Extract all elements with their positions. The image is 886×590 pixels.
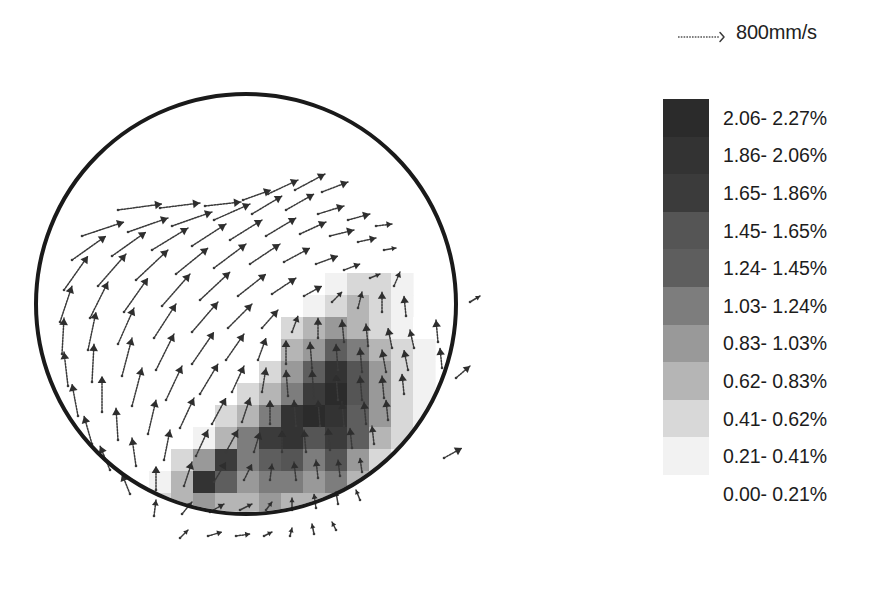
- velocity-arrow: [152, 500, 159, 517]
- velocity-arrow: [251, 196, 282, 215]
- velocity-arrow: [63, 256, 88, 291]
- circular-domain-outline: [36, 94, 456, 514]
- velocity-arrow: [331, 292, 342, 303]
- concentration-legend: 2.06- 2.27%1.86- 2.06%1.65- 1.86%1.45- 1…: [663, 99, 878, 513]
- velocity-arrow: [313, 460, 321, 479]
- velocity-arrow: [469, 296, 480, 303]
- velocity-arrow: [225, 430, 239, 453]
- velocity-arrow: [362, 324, 371, 347]
- legend-range-label: 1.65- 1.86%: [723, 181, 827, 204]
- velocity-arrow: [369, 426, 377, 445]
- velocity-arrow: [332, 374, 341, 401]
- legend-range-label: 0.21- 0.41%: [723, 445, 827, 468]
- velocity-arrow: [332, 344, 341, 371]
- velocity-arrow: [117, 201, 162, 212]
- velocity-arrow: [382, 400, 390, 421]
- velocity-arrow: [111, 232, 146, 257]
- velocity-arrow: [253, 432, 262, 453]
- legend-range-label: 0.41- 0.62%: [723, 407, 827, 430]
- velocity-arrow: [261, 368, 270, 393]
- velocity-arrow: [303, 286, 322, 298]
- velocity-arrow: [299, 221, 326, 235]
- velocity-arrow: [131, 368, 145, 407]
- legend-row: 0.21- 0.41%: [663, 437, 878, 475]
- velocity-arrow: [179, 398, 195, 429]
- velocity-arrow: [89, 344, 98, 383]
- velocity-arrow: [213, 203, 250, 221]
- velocity-arrow: [324, 428, 333, 451]
- velocity-arrow: [288, 528, 293, 537]
- legend-row: 0.41- 0.62%: [663, 400, 878, 438]
- velocity-arrow: [59, 286, 74, 323]
- legend-row: 1.86- 2.06%: [663, 137, 878, 175]
- velocity-arrow: [268, 464, 275, 481]
- velocity-arrow: [87, 312, 99, 351]
- velocity-arrow: [291, 462, 299, 481]
- velocity-arrow: [378, 376, 387, 399]
- velocity-arrow: [163, 430, 173, 461]
- velocity-arrow: [265, 502, 272, 511]
- velocity-arrow: [249, 244, 280, 265]
- legend-color-swatch: [663, 212, 709, 250]
- velocity-arrow: [347, 212, 370, 222]
- velocity-arrow: [261, 310, 278, 329]
- velocity-arrow: [393, 272, 401, 287]
- velocity-arrow: [401, 350, 409, 371]
- velocity-arrow: [360, 402, 369, 425]
- velocity-arrow: [199, 364, 218, 395]
- legend-color-swatch: [663, 287, 709, 325]
- velocity-arrow: [455, 366, 470, 379]
- velocity-arrow: [432, 320, 441, 343]
- velocity-arrow: [358, 458, 364, 473]
- velocity-arrow: [175, 248, 208, 275]
- velocity-arrow: [332, 522, 338, 531]
- velocity-arrow: [227, 304, 252, 329]
- velocity-arrow: [121, 338, 135, 377]
- legend-row: 1.65- 1.86%: [663, 174, 878, 212]
- velocity-arrow: [89, 282, 109, 319]
- velocity-arrow: [112, 408, 121, 441]
- legend-row: 1.24- 1.45%: [663, 249, 878, 287]
- velocity-arrow: [400, 296, 408, 317]
- velocity-arrow: [338, 402, 347, 427]
- velocity-arrow: [443, 448, 462, 460]
- velocity-arrow: [314, 318, 322, 339]
- velocity-arrow: [98, 376, 107, 413]
- legend-range-label: 1.24- 1.45%: [723, 257, 827, 280]
- velocity-arrow: [123, 278, 148, 313]
- velocity-arrow: [263, 532, 272, 538]
- velocity-arrow: [282, 340, 291, 365]
- velocity-arrow: [375, 221, 392, 228]
- velocity-arrow: [343, 263, 360, 272]
- legend-range-label: 1.86- 2.06%: [723, 144, 827, 167]
- legend-row: 2.06- 2.27%: [663, 99, 878, 137]
- figure-root: 800mm/s 2.06- 2.27%1.86- 2.06%1.65- 1.86…: [0, 0, 886, 590]
- velocity-arrow: [278, 430, 287, 453]
- velocity-arrow: [257, 338, 268, 361]
- velocity-arrow: [71, 236, 106, 261]
- velocity-arrow: [356, 376, 365, 401]
- velocity-arrow: [135, 250, 168, 281]
- legend-row: 0.62- 0.83%: [663, 362, 878, 400]
- velocity-arrow: [195, 430, 209, 457]
- velocity-arrow: [129, 438, 138, 467]
- velocity-arrow: [207, 530, 222, 537]
- velocity-arrow: [97, 254, 126, 287]
- velocity-arrow: [300, 430, 309, 453]
- velocity-arrow: [290, 400, 299, 427]
- legend-range-label: 1.03- 1.24%: [723, 294, 827, 317]
- velocity-arrow: [308, 370, 317, 399]
- velocity-arrow: [338, 320, 347, 343]
- velocity-arrow: [385, 328, 393, 349]
- velocity-arrow: [285, 194, 314, 212]
- velocity-arrow: [408, 330, 416, 349]
- velocity-arrow: [356, 348, 365, 373]
- legend-range-label: 0.62- 0.83%: [723, 369, 827, 392]
- velocity-arrow: [69, 384, 79, 417]
- legend-row: 1.45- 1.65%: [663, 212, 878, 250]
- velocity-arrow: [317, 204, 344, 215]
- legend-row: 0.83- 1.03%: [663, 325, 878, 363]
- velocity-arrow: [213, 244, 246, 269]
- legend-range-label: 0.83- 1.03%: [723, 332, 827, 355]
- velocity-scale-key: 800mm/s: [676, 18, 876, 56]
